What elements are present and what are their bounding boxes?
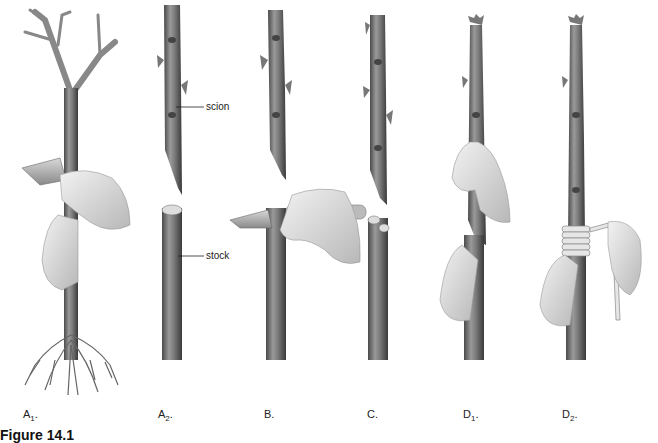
- hand-lower: [42, 215, 78, 290]
- hand: [280, 189, 360, 263]
- panel-label-a1: A1.: [23, 408, 38, 423]
- panel-c-illustration: [363, 15, 393, 360]
- panel-letter: D: [562, 408, 570, 420]
- panel-suffix: .: [475, 408, 478, 420]
- panel-suffix: .: [35, 408, 38, 420]
- stock: [368, 218, 388, 360]
- panel-d1-illustration: [440, 14, 510, 360]
- panel-label-c: C.: [367, 408, 378, 420]
- knife-blade: [22, 158, 66, 185]
- panel-letter: D: [463, 408, 471, 420]
- panel-d2-illustration: [540, 14, 641, 360]
- scion: [370, 15, 387, 205]
- panel-suffix: .: [375, 408, 378, 420]
- hand-right: [608, 221, 641, 295]
- panel-suffix: .: [170, 408, 173, 420]
- scion: [164, 5, 182, 195]
- scion: [568, 25, 585, 240]
- panel-a1-illustration: [22, 10, 130, 395]
- stock: [162, 208, 182, 360]
- panel-label-d1: D1.: [463, 408, 478, 423]
- panel-suffix: .: [271, 408, 274, 420]
- panel-suffix: .: [574, 408, 577, 420]
- panel-label-b: B.: [264, 408, 274, 420]
- scion-callout-label: scion: [206, 101, 229, 112]
- hand-upper: [452, 142, 510, 223]
- panel-b-illustration: [230, 10, 366, 360]
- panel-label-a2: A2.: [158, 408, 173, 423]
- panel-label-d2: D2.: [562, 408, 577, 423]
- panel-a2-illustration: [157, 5, 204, 360]
- stock-callout-label: stock: [206, 250, 229, 261]
- panel-letter: C: [367, 408, 375, 420]
- branches: [25, 10, 115, 90]
- knife-blade: [230, 210, 272, 228]
- figure-caption: Figure 14.1: [0, 427, 74, 443]
